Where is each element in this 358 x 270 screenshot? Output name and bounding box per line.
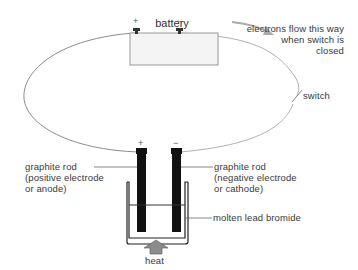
battery-positive-sign: +: [133, 17, 138, 26]
heat-label: heat: [145, 255, 164, 266]
wire-left-loop: [24, 33, 140, 152]
cathode-sign: −: [173, 139, 178, 148]
battery-body: [130, 33, 218, 65]
anode-label: graphite rod (positive electrode or anod…: [25, 161, 104, 194]
battery-negative-sign: −: [176, 17, 181, 26]
wire-right-bottom: [180, 104, 293, 152]
cathode-rod: [172, 154, 181, 232]
electrolyte-label: molten lead bromide: [213, 212, 301, 223]
anode-rod: [137, 154, 146, 232]
electron-flow-label: electrons flow this way when switch is c…: [228, 23, 344, 56]
switch-label: switch: [303, 90, 330, 101]
anode-sign: +: [138, 139, 143, 148]
switch-blade: [292, 90, 302, 102]
cathode-cap: [171, 148, 182, 154]
anode-cap: [136, 148, 147, 154]
heat-arrow-icon: [144, 240, 168, 254]
battery-label: battery: [137, 17, 207, 29]
cathode-label: graphite rod (negative electrode or cath…: [214, 161, 297, 194]
